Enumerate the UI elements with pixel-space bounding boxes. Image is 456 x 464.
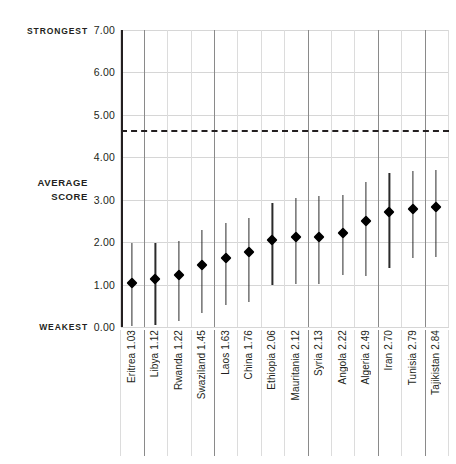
axis-annotation-weakest: WEAKEST bbox=[0, 321, 88, 333]
x-tick-label-angola: Angola 2.22 bbox=[337, 330, 348, 384]
x-label-separator bbox=[448, 330, 449, 456]
error-bar bbox=[248, 218, 249, 302]
data-point-marker bbox=[431, 201, 442, 212]
y-axis-line bbox=[121, 30, 123, 327]
x-label-separator bbox=[308, 330, 309, 456]
data-point-marker bbox=[267, 234, 278, 245]
data-point-marker bbox=[360, 216, 371, 227]
x-tick-label-algeria: Algeria 2.49 bbox=[360, 330, 371, 385]
x-label-separator bbox=[237, 330, 238, 456]
data-point-marker bbox=[243, 247, 254, 258]
data-point-marker bbox=[407, 203, 418, 214]
x-label-separator bbox=[401, 330, 402, 456]
data-point-marker bbox=[290, 231, 301, 242]
y-tick-label: 4.00 bbox=[94, 151, 115, 163]
data-point-marker bbox=[173, 270, 184, 281]
x-tick-label-tunisia: Tunisia 2.79 bbox=[407, 330, 418, 385]
data-point-marker bbox=[384, 207, 395, 218]
vertical-gridline bbox=[191, 30, 192, 327]
x-tick-label-iran: Iran 2.70 bbox=[383, 330, 394, 370]
y-axis-title: AVERAGE SCORE bbox=[0, 176, 88, 204]
x-label-separator bbox=[144, 330, 145, 456]
data-point-marker bbox=[150, 274, 161, 285]
y-tick-label: 1.00 bbox=[94, 279, 115, 291]
gridline-y-0 bbox=[121, 327, 449, 328]
x-tick-label-rwanda: Rwanda 1.22 bbox=[173, 330, 184, 390]
y-tick-label: 7.00 bbox=[94, 24, 115, 36]
x-label-separator bbox=[167, 330, 168, 456]
error-bar bbox=[178, 241, 179, 321]
y-tick-label: 5.00 bbox=[94, 109, 115, 121]
error-bar bbox=[436, 170, 437, 257]
x-label-separator bbox=[331, 330, 332, 456]
y-axis-title-line2: SCORE bbox=[0, 190, 88, 204]
x-label-separator bbox=[284, 330, 285, 456]
x-label-separator bbox=[354, 330, 355, 456]
data-point-marker bbox=[126, 278, 137, 289]
vertical-gridline bbox=[261, 30, 262, 327]
vertical-gridline bbox=[425, 30, 426, 327]
vertical-gridline bbox=[401, 30, 402, 327]
error-bar bbox=[389, 173, 390, 267]
y-axis-title-line1: AVERAGE bbox=[0, 176, 88, 190]
x-tick-label-syria: Syria 2.13 bbox=[313, 330, 324, 376]
axis-annotation-strongest: STRONGEST bbox=[0, 25, 88, 37]
x-tick-label-laos: Laos 1.63 bbox=[220, 330, 231, 375]
error-bar bbox=[365, 182, 366, 276]
vertical-gridline bbox=[214, 30, 215, 327]
vertical-gridline bbox=[378, 30, 379, 327]
y-tick-label: 2.00 bbox=[94, 236, 115, 248]
x-tick-label-ethiopia: Ethiopia 2.06 bbox=[266, 330, 277, 390]
vertical-gridline bbox=[308, 30, 309, 327]
data-point-marker bbox=[220, 252, 231, 263]
y-tick-label: 3.00 bbox=[94, 194, 115, 206]
x-axis-labels: Eritrea 1.03Libya 1.12Rwanda 1.22Swazila… bbox=[121, 330, 456, 462]
data-point-marker bbox=[337, 227, 348, 238]
vertical-gridline bbox=[284, 30, 285, 327]
x-tick-label-tajikistan: Tajikistan 2.84 bbox=[430, 330, 441, 395]
vertical-gridline bbox=[331, 30, 332, 327]
x-label-separator bbox=[425, 330, 426, 456]
data-point-marker bbox=[314, 231, 325, 242]
x-tick-label-swaziland: Swaziland 1.45 bbox=[196, 330, 207, 399]
x-tick-label-mauritania: Mauritania 2.12 bbox=[290, 330, 301, 400]
x-tick-label-libya: Libya 1.12 bbox=[149, 330, 160, 377]
x-label-separator bbox=[378, 330, 379, 456]
x-label-separator bbox=[120, 330, 121, 456]
x-label-separator bbox=[191, 330, 192, 456]
x-tick-label-china: China 1.76 bbox=[243, 330, 254, 379]
vertical-gridline bbox=[237, 30, 238, 327]
chart-container: STRONGEST AVERAGE SCORE WEAKEST 0.001.00… bbox=[0, 0, 456, 464]
data-point-marker bbox=[197, 260, 208, 271]
x-label-separator bbox=[214, 330, 215, 456]
y-tick-label: 6.00 bbox=[94, 66, 115, 78]
x-tick-label-eritrea: Eritrea 1.03 bbox=[126, 330, 137, 383]
vertical-gridline bbox=[144, 30, 145, 327]
vertical-gridline bbox=[167, 30, 168, 327]
error-bar bbox=[202, 230, 203, 313]
vertical-gridline bbox=[448, 30, 449, 327]
x-label-separator bbox=[261, 330, 262, 456]
y-tick-label: 0.00 bbox=[94, 321, 115, 333]
vertical-gridline bbox=[354, 30, 355, 327]
plot-area: 0.001.002.003.004.005.006.007.00 bbox=[121, 30, 449, 327]
reference-line bbox=[121, 130, 449, 132]
error-bar bbox=[225, 223, 226, 304]
